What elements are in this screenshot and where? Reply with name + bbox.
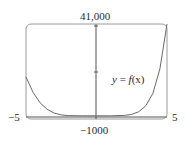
curve-label-arg: (x) xyxy=(132,73,145,85)
curve-label-eq: = xyxy=(117,73,129,85)
y-min-label: −1000 xyxy=(80,125,108,136)
curve-label: y = f(x) xyxy=(112,74,145,85)
x-max-label: 5 xyxy=(172,112,178,123)
y-max-label: 41,000 xyxy=(80,11,110,22)
x-min-label: −5 xyxy=(8,112,20,123)
